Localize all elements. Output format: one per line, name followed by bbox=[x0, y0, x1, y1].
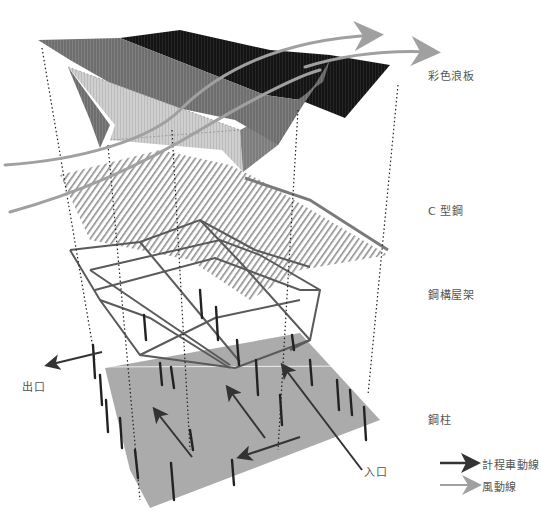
legend-wind: 風動線 bbox=[482, 478, 517, 494]
label-exit: 出口 bbox=[22, 378, 45, 394]
legend-taxi: 計程車動線 bbox=[482, 456, 540, 472]
legend-wind-label: 風動線 bbox=[482, 478, 517, 494]
label-purlins: C 型鋼 bbox=[428, 202, 463, 218]
label-truss: 鋼構屋架 bbox=[428, 286, 474, 302]
label-roof: 彩色浪板 bbox=[428, 67, 474, 83]
ground-slab bbox=[80, 333, 380, 508]
label-entrance: 入口 bbox=[364, 463, 387, 479]
legend-taxi-label: 計程車動線 bbox=[482, 456, 540, 472]
label-columns: 鋼柱 bbox=[428, 411, 451, 427]
c-steel-purlins bbox=[60, 150, 388, 300]
